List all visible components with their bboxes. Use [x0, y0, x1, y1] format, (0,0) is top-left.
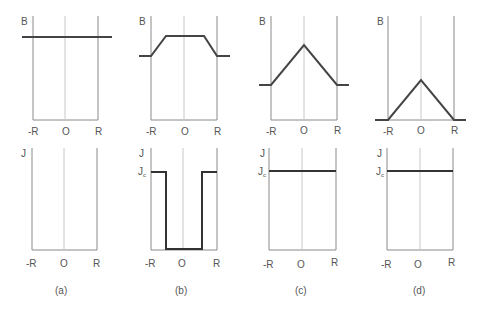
panel-b-jc-label: Jc: [138, 166, 146, 178]
panel-a-top-tick-o: O: [62, 126, 70, 137]
panel-d-b-label: B: [377, 16, 384, 27]
panel-c-j-label: J: [260, 148, 265, 159]
panel-b-top-tick-o: O: [181, 126, 189, 137]
panel-b-b-label: B: [139, 16, 146, 27]
panel-a: B -R O R J -R O R (a): [21, 16, 112, 296]
panel-b-j-curve: [151, 172, 217, 249]
panel-a-b-label: B: [21, 16, 28, 27]
panel-d-bottom-tick-r: R: [448, 257, 455, 268]
panel-c-top-tick-o: O: [300, 125, 308, 136]
panel-c-bottom-axes: [269, 148, 336, 250]
panel-d-top-tick-r: R: [451, 125, 458, 136]
panel-c-top-axes: [271, 16, 337, 120]
panel-a-top-axes: [33, 16, 98, 120]
panel-a-bottom-tick-neg-r: -R: [26, 258, 37, 269]
panel-d: B -R O R J Jc -R O R (d): [375, 16, 466, 296]
panel-c-caption: (c): [295, 285, 307, 296]
panel-b-top-tick-neg-r: -R: [146, 126, 157, 137]
panel-c-bottom-tick-o: O: [297, 259, 305, 270]
panel-d-j-label: J: [377, 148, 382, 159]
panel-d-jc-label: Jc: [376, 166, 384, 178]
panel-d-top-tick-neg-r: -R: [383, 126, 394, 137]
panel-d-bottom-tick-o: O: [414, 259, 422, 270]
panel-c-top-tick-neg-r: -R: [266, 126, 277, 137]
panel-d-caption: (d): [413, 285, 425, 296]
panel-b-top-axes: [151, 16, 217, 120]
panel-d-top-tick-o: O: [417, 125, 425, 136]
panel-a-caption: (a): [55, 285, 67, 296]
panel-a-top-tick-neg-r: -R: [28, 126, 39, 137]
panel-b: B -R O R J Jc -R O R (b): [138, 16, 230, 296]
panel-a-bottom-tick-r: R: [93, 258, 100, 269]
panel-d-top-axes: [388, 16, 454, 120]
panel-b-bottom-tick-neg-r: -R: [145, 258, 156, 269]
panel-d-bottom-tick-neg-r: -R: [381, 259, 392, 270]
panel-b-top-tick-r: R: [214, 126, 221, 137]
panel-a-bottom-axes: [32, 148, 97, 250]
panel-a-bottom-tick-o: O: [60, 258, 68, 269]
panel-a-j-label: J: [21, 148, 26, 159]
panel-c-bottom-tick-r: R: [331, 257, 338, 268]
panel-b-j-label: J: [139, 148, 144, 159]
panel-a-top-tick-r: R: [95, 126, 102, 137]
panel-c-jc-label: Jc: [258, 166, 266, 178]
panel-c-top-tick-r: R: [334, 125, 341, 136]
figure-canvas: B -R O R J -R O R (a) B -R O R: [0, 0, 483, 313]
panel-d-bottom-axes: [387, 148, 453, 250]
panel-c-b-label: B: [259, 16, 266, 27]
panel-b-bottom-tick-r: R: [213, 258, 220, 269]
panel-b-bottom-axes: [151, 148, 217, 250]
panel-c: B -R O R J Jc -R O R (c): [258, 16, 349, 296]
panel-b-caption: (b): [175, 285, 187, 296]
panel-c-bottom-tick-neg-r: -R: [263, 259, 274, 270]
panel-b-bottom-tick-o: O: [178, 258, 186, 269]
